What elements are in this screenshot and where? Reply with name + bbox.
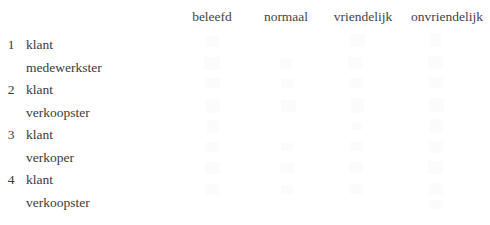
table-row-group-1: 1 klant medewerkster <box>0 34 490 79</box>
column-header-vriendelijk: vriendelijk <box>324 8 402 26</box>
row-number: 2 <box>4 79 18 102</box>
table-body: 1 klant medewerkster 2 klant verkoopster… <box>0 34 490 214</box>
row-label: klant <box>26 124 53 147</box>
table-row: 2 klant <box>0 79 490 102</box>
table-row: 3 klant <box>0 124 490 147</box>
row-label: klant <box>26 34 53 57</box>
row-number: 3 <box>4 124 18 147</box>
table-row: 4 klant <box>0 169 490 192</box>
table-row: verkoopster <box>0 192 490 215</box>
table-header-row: beleefd normaal vriendelijk onvriendelij… <box>0 8 490 26</box>
table-row-group-2: 2 klant verkoopster <box>0 79 490 124</box>
table-row-group-3: 3 klant verkoper <box>0 124 490 169</box>
table-row: medewerkster <box>0 57 490 80</box>
row-label: verkoper <box>26 147 74 170</box>
table-row: verkoopster <box>0 102 490 125</box>
row-label: medewerkster <box>26 57 102 80</box>
column-header-beleefd: beleefd <box>178 8 246 26</box>
column-header-normaal: normaal <box>252 8 320 26</box>
row-number: 4 <box>4 169 18 192</box>
column-header-onvriendelijk: onvriendelijk <box>404 8 490 26</box>
row-label: klant <box>26 169 53 192</box>
row-label: klant <box>26 79 53 102</box>
row-number: 1 <box>4 34 18 57</box>
table-row-group-4: 4 klant verkoopster <box>0 169 490 214</box>
row-label: verkoopster <box>26 192 90 215</box>
table-row: verkoper <box>0 147 490 170</box>
row-label: verkoopster <box>26 102 90 125</box>
table-row: 1 klant <box>0 34 490 57</box>
scanned-rating-table-page: beleefd normaal vriendelijk onvriendelij… <box>0 0 490 225</box>
